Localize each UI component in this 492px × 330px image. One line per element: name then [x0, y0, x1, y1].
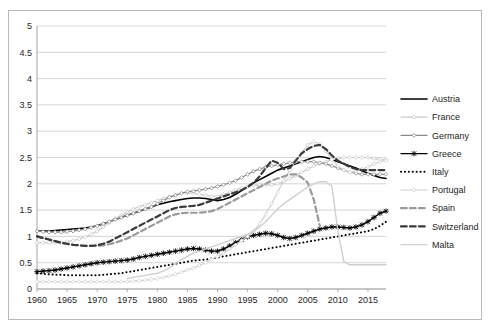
data-point-marker	[125, 213, 129, 217]
data-point-marker	[312, 160, 316, 164]
data-series-group	[34, 140, 389, 284]
data-point-marker	[305, 230, 311, 236]
data-point-marker	[155, 252, 161, 258]
legend-item-italy[interactable]: Italy	[401, 167, 449, 177]
data-point-marker	[365, 219, 371, 225]
chart-frame: 00.511.522.533.544.55 196019651970197519…	[8, 10, 482, 320]
data-point-marker	[323, 225, 329, 231]
data-point-marker	[411, 151, 417, 157]
legend-item-malta[interactable]: Malta	[401, 240, 454, 250]
legend-label: Malta	[432, 240, 454, 250]
data-point-marker	[143, 254, 149, 260]
legend-label: Germany	[432, 131, 470, 141]
data-point-marker	[186, 268, 190, 272]
data-point-marker	[329, 224, 335, 230]
data-point-marker	[83, 280, 87, 284]
data-point-marker	[330, 164, 334, 168]
data-point-marker	[41, 230, 45, 234]
data-point-marker	[149, 253, 155, 259]
data-point-marker	[383, 208, 389, 214]
data-point-marker	[412, 134, 416, 138]
series-line	[37, 156, 386, 231]
data-point-marker	[270, 164, 274, 168]
data-point-marker	[342, 156, 346, 160]
y-tick-label: 2	[27, 179, 32, 189]
legend-item-greece[interactable]: Greece	[401, 149, 462, 159]
data-point-marker	[348, 156, 352, 160]
data-point-marker	[167, 274, 171, 278]
data-point-marker	[70, 264, 76, 269]
data-point-marker	[360, 156, 364, 160]
legend-item-portugal[interactable]: Portugal	[401, 185, 466, 195]
data-point-marker	[216, 185, 220, 189]
data-point-marker	[348, 170, 352, 174]
data-point-marker	[161, 276, 165, 280]
legend-item-germany[interactable]: Germany	[401, 131, 470, 141]
data-point-marker	[101, 222, 105, 226]
data-point-marker	[167, 249, 173, 255]
data-point-marker	[35, 280, 39, 284]
data-point-marker	[179, 247, 185, 253]
data-point-marker	[180, 191, 184, 195]
y-tick-label: 0	[27, 284, 32, 294]
legend-label: Italy	[432, 167, 449, 177]
data-point-marker	[137, 279, 141, 283]
data-point-marker	[412, 115, 416, 119]
data-point-marker	[88, 261, 94, 267]
legend-item-austria[interactable]: Austria	[401, 94, 460, 104]
data-point-marker	[71, 239, 75, 243]
data-point-marker	[112, 258, 118, 264]
data-point-marker	[149, 201, 153, 205]
data-point-marker	[101, 280, 105, 284]
data-point-marker	[204, 187, 208, 191]
data-point-marker	[204, 193, 208, 197]
data-point-marker	[77, 280, 81, 284]
data-point-marker	[118, 258, 124, 264]
data-point-marker	[161, 250, 167, 256]
data-point-marker	[210, 186, 214, 190]
legend-item-spain[interactable]: Spain	[401, 203, 455, 213]
x-tick-label: 1995	[238, 295, 258, 305]
data-point-marker	[354, 156, 358, 160]
data-point-marker	[82, 262, 88, 267]
data-point-marker	[366, 156, 370, 160]
data-point-marker	[119, 280, 123, 284]
x-tick-label: 2005	[298, 295, 318, 305]
data-point-marker	[125, 257, 131, 263]
legend-label: Switzerland	[432, 222, 479, 232]
data-point-marker	[180, 270, 184, 274]
data-point-marker	[94, 260, 100, 266]
data-point-marker	[378, 172, 382, 176]
data-point-marker	[59, 280, 63, 284]
data-point-marker	[137, 255, 143, 261]
data-point-marker	[107, 280, 111, 284]
data-point-marker	[47, 280, 51, 284]
data-point-marker	[228, 190, 232, 194]
x-tick-label: 1975	[117, 295, 137, 305]
data-point-marker	[155, 277, 159, 281]
x-tick-label: 1970	[87, 295, 107, 305]
x-tick-label: 2000	[268, 295, 288, 305]
data-point-marker	[198, 188, 202, 192]
data-point-marker	[71, 280, 75, 284]
legend-label: Portugal	[432, 185, 466, 195]
data-point-marker	[263, 230, 269, 236]
legend-label: Greece	[432, 149, 462, 159]
series-austria	[37, 156, 386, 231]
data-point-marker	[258, 167, 262, 171]
data-point-marker	[276, 182, 280, 186]
legend-item-switzerland[interactable]: Switzerland	[401, 222, 479, 232]
data-point-marker	[46, 268, 52, 274]
data-point-marker	[100, 259, 106, 265]
series-malta	[127, 182, 386, 279]
x-tick-label: 1965	[57, 295, 77, 305]
x-tick-label: 1980	[147, 295, 167, 305]
data-point-marker	[359, 222, 365, 228]
chart-legend: AustriaFranceGermanyGreeceItalyPortugalS…	[401, 94, 479, 250]
y-tick-label: 2.5	[19, 153, 32, 163]
legend-label: Austria	[432, 94, 460, 104]
legend-item-france[interactable]: France	[401, 112, 460, 122]
data-point-marker	[65, 280, 69, 284]
series-line	[127, 182, 386, 279]
data-point-marker	[198, 192, 202, 196]
